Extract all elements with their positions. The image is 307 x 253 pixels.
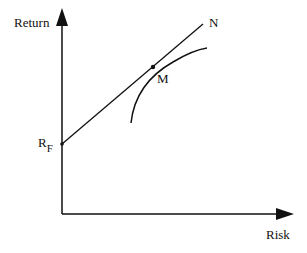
market-portfolio-point [151,65,155,69]
line-end-label-n: N [209,16,218,29]
risk-free-label-subscript: F [47,142,53,154]
risk-free-label-main: R [38,135,47,150]
y-axis-label: Return [14,16,49,29]
x-axis-label: Risk [266,228,290,241]
x-axis-arrow-icon [276,208,294,220]
risk-free-point [60,142,64,146]
market-portfolio-label-m: M [157,72,169,85]
y-axis-arrow-icon [56,8,68,26]
efficient-frontier-curve [131,48,207,123]
risk-free-label: RF [38,136,53,149]
diagram-canvas [0,0,307,253]
capital-market-line [62,24,203,144]
